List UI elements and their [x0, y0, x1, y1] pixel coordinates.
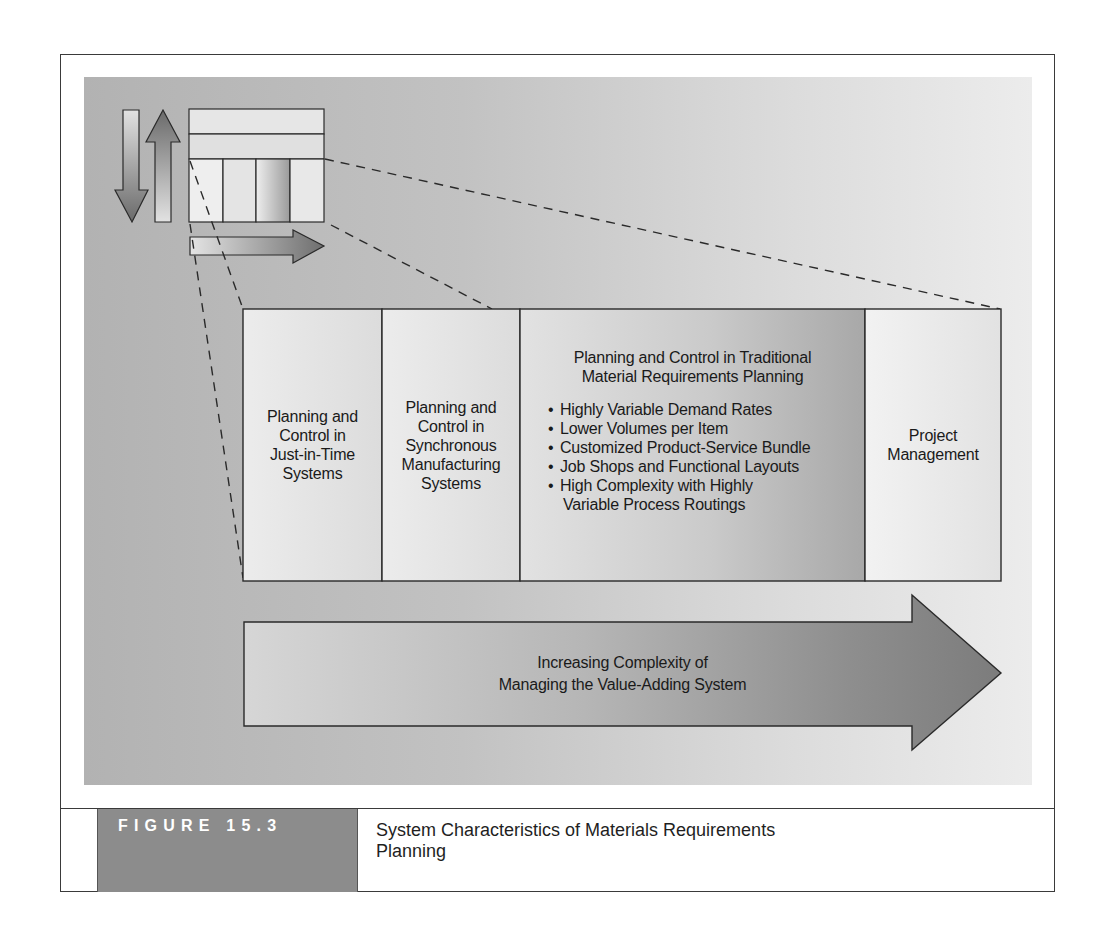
down-arrow-icon — [115, 110, 148, 222]
column-project: Project Management — [865, 309, 1001, 581]
bullet-item: Customized Product-Service Bundle — [548, 438, 865, 457]
column-jit: Planning and Control in Just-in-Time Sys… — [243, 309, 382, 581]
column-mrp-title-line: Material Requirements Planning — [520, 367, 865, 386]
complexity-arrow-line: Increasing Complexity of — [537, 652, 707, 674]
column-mrp-bullets: Highly Variable Demand Rates Lower Volum… — [520, 400, 865, 495]
figure-title: System Characteristics of Materials Requ… — [376, 820, 1036, 862]
complexity-arrow-label: Increasing Complexity of Managing the Va… — [244, 622, 1001, 726]
column-mrp-title: Planning and Control in Traditional Mate… — [520, 348, 865, 386]
bullet-item: Highly Variable Demand Rates — [548, 400, 865, 419]
bullet-item: High Complexity with Highly — [548, 476, 865, 495]
up-arrow-icon — [146, 110, 180, 222]
column-synchronous-line: Systems — [402, 474, 501, 493]
column-project-line: Project — [887, 426, 978, 445]
figure-title-line: System Characteristics of Materials Requ… — [376, 820, 1036, 841]
column-jit-line: Systems — [267, 464, 358, 483]
column-project-line: Management — [887, 445, 978, 464]
column-synchronous: Planning and Control in Synchronous Manu… — [382, 309, 520, 581]
complexity-arrow-line: Managing the Value-Adding System — [499, 674, 747, 696]
figure-label: FIGURE 15.3 — [118, 817, 282, 835]
figure-label-box: FIGURE 15.3 — [97, 809, 358, 892]
column-synchronous-line: Control in — [402, 417, 501, 436]
column-jit-line: Planning and — [267, 407, 358, 426]
right-arrow-icon — [190, 230, 324, 263]
column-synchronous-line: Planning and — [402, 398, 501, 417]
column-synchronous-line: Synchronous — [402, 436, 501, 455]
column-mrp: Planning and Control in Traditional Mate… — [520, 309, 865, 581]
figure-title-line: Planning — [376, 841, 1036, 862]
column-mrp-title-line: Planning and Control in Traditional — [520, 348, 865, 367]
column-synchronous-line: Manufacturing — [402, 455, 501, 474]
column-jit-line: Just-in-Time — [267, 445, 358, 464]
mini-table-icon — [189, 109, 324, 222]
bullet-item: Job Shops and Functional Layouts — [548, 457, 865, 476]
column-jit-line: Control in — [267, 426, 358, 445]
bullet-item: Lower Volumes per Item — [548, 419, 865, 438]
bullet-continuation: Variable Process Routings — [520, 495, 865, 514]
